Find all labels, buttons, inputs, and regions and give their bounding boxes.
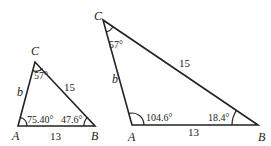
vertex-label-B-small: B: [91, 129, 99, 143]
angle-label-C-large: 57°: [109, 39, 123, 50]
angle-label-A-large: 104.6°: [146, 112, 173, 123]
side-label-a-small: 15: [64, 81, 76, 93]
side-label-c-small: 13: [50, 130, 62, 142]
side-label-a-large: 15: [179, 57, 191, 69]
triangle-small: C A B b 15 13 75.40° 47.6° 57°: [11, 44, 99, 143]
angle-label-A-small: 75.40°: [27, 114, 54, 125]
side-label-c-large: 13: [188, 126, 200, 138]
angle-label-B-large: 18.4°: [208, 112, 230, 123]
vertex-label-B-large: B: [258, 130, 266, 144]
triangle-large-outline: [103, 20, 258, 125]
triangle-large: C A B b 15 13 104.6° 18.4° 57°: [94, 9, 266, 144]
angle-label-B-small: 47.6°: [61, 114, 83, 125]
side-label-b-small: b: [17, 85, 23, 99]
vertex-label-C-small: C: [31, 44, 40, 58]
angle-arc-A-small: [20, 117, 27, 126]
vertex-label-A-large: A: [127, 130, 136, 144]
angle-arc-B-small: [84, 118, 87, 126]
angle-label-C-small: 57°: [34, 70, 48, 81]
vertex-label-A-small: A: [11, 129, 20, 143]
vertex-label-C-large: C: [94, 9, 103, 23]
angle-arc-B-large: [232, 110, 237, 125]
angle-arc-C-large: [106, 27, 113, 32]
side-label-b-large: b: [112, 72, 118, 86]
two-triangles-diagram: C A B b 15 13 75.40° 47.6° 57° C A B b 1…: [0, 0, 271, 146]
